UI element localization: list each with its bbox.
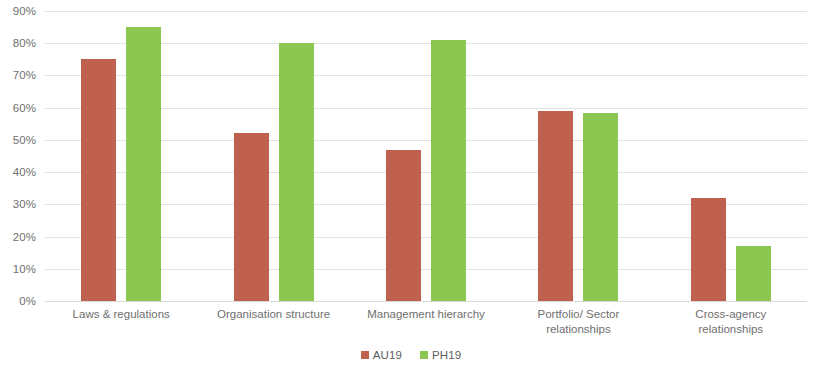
bar-ph19 xyxy=(736,246,771,301)
y-axis-tick-label: 20% xyxy=(0,231,36,243)
bars xyxy=(502,11,654,301)
plot-area xyxy=(45,11,807,301)
y-axis-tick-label: 10% xyxy=(0,263,36,275)
bar-group xyxy=(45,11,197,301)
bar-ph19 xyxy=(431,40,466,301)
bar-chart: 90%80%70%60%50%40%30%20%10%0% Laws & reg… xyxy=(0,0,822,370)
y-axis-tick-label: 60% xyxy=(0,102,36,114)
bar-groups xyxy=(45,11,807,301)
y-axis-tick-label: 40% xyxy=(0,166,36,178)
x-axis-category-label: Management hierarchy xyxy=(350,307,502,337)
legend-item-ph19[interactable]: PH19 xyxy=(420,349,461,361)
chart-legend: AU19PH19 xyxy=(0,349,822,361)
bar-au19 xyxy=(691,198,726,301)
x-axis-category-label: Laws & regulations xyxy=(45,307,197,337)
legend-swatch-icon xyxy=(361,351,369,359)
bars xyxy=(655,11,807,301)
x-axis-category-label: Portfolio/ Sector relationships xyxy=(502,307,654,337)
bar-group xyxy=(502,11,654,301)
y-axis-tick-label: 30% xyxy=(0,198,36,210)
y-axis-tick-label: 0% xyxy=(0,295,36,307)
y-axis-tick-label: 90% xyxy=(0,5,36,17)
bar-group xyxy=(350,11,502,301)
legend-label: PH19 xyxy=(432,349,461,361)
bars xyxy=(197,11,349,301)
bar-ph19 xyxy=(279,43,314,301)
bar-au19 xyxy=(538,111,573,301)
bar-group xyxy=(197,11,349,301)
bar-ph19 xyxy=(583,113,618,302)
bar-au19 xyxy=(234,133,269,301)
legend-label: AU19 xyxy=(373,349,402,361)
bar-au19 xyxy=(386,150,421,301)
x-axis-category-label: Cross-agency relationships xyxy=(655,307,807,337)
legend-swatch-icon xyxy=(420,351,428,359)
bars xyxy=(350,11,502,301)
bar-au19 xyxy=(81,59,116,301)
x-axis-category-label: Organisation structure xyxy=(197,307,349,337)
y-axis-tick-label: 80% xyxy=(0,37,36,49)
gridline xyxy=(45,301,807,302)
bars xyxy=(45,11,197,301)
x-axis-labels: Laws & regulationsOrganisation structure… xyxy=(45,307,807,337)
bar-ph19 xyxy=(126,27,161,301)
legend-item-au19[interactable]: AU19 xyxy=(361,349,402,361)
y-axis-tick-label: 70% xyxy=(0,69,36,81)
bar-group xyxy=(655,11,807,301)
y-axis-tick-label: 50% xyxy=(0,134,36,146)
